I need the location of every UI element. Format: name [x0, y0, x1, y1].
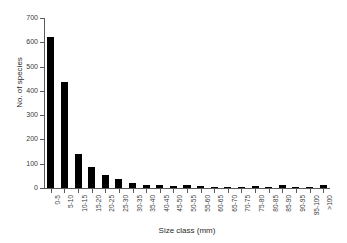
x-tick-mark	[269, 189, 270, 193]
y-tick-mark	[40, 188, 45, 189]
x-tick-mark	[255, 189, 256, 193]
x-tick-mark	[296, 189, 297, 193]
x-tick-label: 5-10	[67, 195, 74, 208]
bar	[102, 175, 109, 188]
y-tick-label: 200	[26, 135, 38, 142]
x-tick-label: 0-5	[54, 195, 61, 204]
x-tick-mark	[173, 189, 174, 193]
x-tick-label: 40-45	[163, 195, 170, 212]
bar	[47, 37, 54, 188]
x-tick-mark	[92, 189, 93, 193]
x-tick-mark	[119, 189, 120, 193]
bar	[197, 186, 204, 188]
x-tick-mark	[323, 189, 324, 193]
x-tick-label: 50-55	[190, 195, 197, 212]
y-tick-label: 500	[26, 63, 38, 70]
x-tick-label: 55-60	[204, 195, 211, 212]
x-tick-label: 80-85	[272, 195, 279, 212]
bar	[156, 185, 163, 188]
bar	[170, 186, 177, 188]
x-tick-mark	[241, 189, 242, 193]
x-tick-mark	[160, 189, 161, 193]
y-tick-label: 300	[26, 111, 38, 118]
x-tick-label: 90-95	[299, 195, 306, 212]
bar	[61, 82, 68, 188]
x-tick-label: 45-50	[176, 195, 183, 212]
x-tick-label: 65-70	[231, 195, 238, 212]
y-tick-label: 0	[34, 184, 38, 191]
x-tick-label: 20-25	[108, 195, 115, 212]
x-tick-label: 95-100	[313, 195, 320, 215]
x-tick-mark	[51, 189, 52, 193]
bar	[265, 187, 272, 188]
x-tick-label: 10-15	[81, 195, 88, 212]
x-tick-label: 70-75	[244, 195, 251, 212]
y-tick-label: 100	[26, 160, 38, 167]
bar	[211, 187, 218, 188]
x-tick-mark	[228, 189, 229, 193]
x-tick-label: 35-40	[149, 195, 156, 212]
x-tick-mark	[64, 189, 65, 193]
bar	[75, 154, 82, 188]
x-tick-mark	[214, 189, 215, 193]
x-tick-mark	[201, 189, 202, 193]
x-tick-label: 25-30	[122, 195, 129, 212]
x-tick-mark	[310, 189, 311, 193]
x-tick-mark	[105, 189, 106, 193]
bar	[238, 187, 245, 188]
bar	[306, 187, 313, 188]
x-tick-label: 30-35	[136, 195, 143, 212]
x-tick-label: 60-65	[217, 195, 224, 212]
y-tick-label: 700	[26, 14, 38, 21]
x-tick-mark	[282, 189, 283, 193]
x-tick-mark	[133, 189, 134, 193]
x-tick-mark	[187, 189, 188, 193]
bar	[183, 185, 190, 188]
x-tick-mark	[78, 189, 79, 193]
figure-histogram: 0100200300400500600700 0-55-1010-1515-20…	[0, 0, 347, 243]
bar	[292, 187, 299, 188]
bar	[320, 185, 327, 188]
bars-layer	[44, 18, 330, 188]
x-tick-mark	[146, 189, 147, 193]
bar	[88, 167, 95, 188]
bar	[252, 186, 259, 188]
bar	[115, 179, 122, 188]
y-tick-label: 400	[26, 87, 38, 94]
bar	[129, 183, 136, 188]
bar	[224, 187, 231, 188]
x-tick-label: 15-20	[95, 195, 102, 212]
bar	[143, 185, 150, 188]
x-tick-label: >100	[326, 195, 333, 210]
bar	[279, 185, 286, 188]
y-tick-label: 600	[26, 38, 38, 45]
x-tick-label: 85-90	[285, 195, 292, 212]
x-axis-title: Size class (mm)	[44, 226, 330, 235]
x-tick-label: 75-80	[258, 195, 265, 212]
y-axis-title: No. of species	[15, 28, 24, 138]
